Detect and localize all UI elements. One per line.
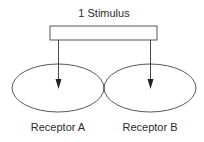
arrowhead-icon [56, 79, 62, 89]
receptor-b-label: Receptor B [122, 121, 177, 133]
stimulus-title: 1 Stimulus [78, 7, 130, 19]
stimulus-box [50, 26, 157, 40]
arrowhead-icon [148, 79, 154, 89]
receptor-b-ellipse [104, 64, 196, 112]
receptor-a-label: Receptor A [31, 121, 86, 133]
arrow-to-receptor-b [148, 40, 154, 89]
stimulus-receptor-diagram: 1 Stimulus Receptor A Receptor B [0, 0, 204, 142]
receptor-a-ellipse [12, 64, 104, 112]
arrow-to-receptor-a [56, 40, 62, 89]
